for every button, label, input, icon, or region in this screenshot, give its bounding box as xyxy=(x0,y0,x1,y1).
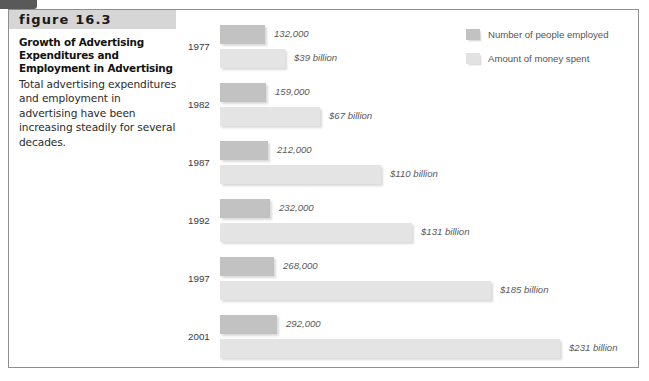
bar-group: 1997268,000$185 billion xyxy=(0,254,649,311)
bar-value-label: 159,000 xyxy=(275,86,310,97)
bar-chart-plot: 1977132,000$39 billion1982159,000$67 bil… xyxy=(0,0,649,381)
bar-value-label: $67 billion xyxy=(329,110,372,121)
bar-money-spent xyxy=(220,49,285,68)
year-label: 1977 xyxy=(188,41,220,52)
bar-value-label: $39 billion xyxy=(294,52,337,63)
bar-value-label: $185 billion xyxy=(500,284,549,295)
bar-value-label: $231 billion xyxy=(569,342,618,353)
bar-group: 1987212,000$110 billion xyxy=(0,138,649,195)
bar-value-label: 268,000 xyxy=(283,260,318,271)
year-label: 2001 xyxy=(188,331,220,342)
bar-group: 1982159,000$67 billion xyxy=(0,80,649,137)
bar-people-employed xyxy=(220,83,266,102)
bar-people-employed xyxy=(220,257,274,276)
year-label: 1987 xyxy=(188,157,220,168)
bar-value-label: 292,000 xyxy=(286,318,321,329)
bar-value-label: $131 billion xyxy=(421,226,470,237)
year-label: 1992 xyxy=(188,215,220,226)
bar-people-employed xyxy=(220,141,268,160)
bar-money-spent xyxy=(220,339,560,358)
bar-value-label: 232,000 xyxy=(279,202,314,213)
year-label: 1997 xyxy=(188,273,220,284)
bar-money-spent xyxy=(220,223,412,242)
year-label: 1982 xyxy=(188,99,220,110)
bar-group: 2001292,000$231 billion xyxy=(0,312,649,369)
bar-money-spent xyxy=(220,107,320,126)
bar-money-spent xyxy=(220,165,381,184)
bar-money-spent xyxy=(220,281,491,300)
bar-people-employed xyxy=(220,315,277,334)
bar-value-label: 212,000 xyxy=(277,144,312,155)
bar-people-employed xyxy=(220,25,265,44)
bar-group: 1977132,000$39 billion xyxy=(0,22,649,79)
figure-panel: figure 16.3 Growth of Advertising Expend… xyxy=(0,0,649,381)
bar-people-employed xyxy=(220,199,270,218)
bar-group: 1992232,000$131 billion xyxy=(0,196,649,253)
bar-value-label: $110 billion xyxy=(390,168,438,179)
bar-value-label: 132,000 xyxy=(274,28,309,39)
